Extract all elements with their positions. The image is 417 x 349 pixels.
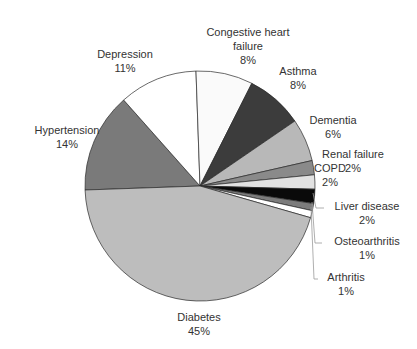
label-percent: 2% (324, 213, 410, 227)
label-name: Renal failure (312, 147, 394, 161)
label-percent: 2% (310, 175, 350, 189)
label-congestive-heart: Congestive heartfailure8% (193, 25, 303, 67)
label-percent: 8% (268, 78, 328, 92)
label-name: Congestive heart (193, 25, 303, 39)
label-percent: 45% (164, 324, 234, 338)
label-name: Depression (85, 47, 165, 61)
label-name: COPD (310, 161, 350, 175)
label-percent: 1% (322, 248, 412, 262)
label-dementia: Dementia6% (300, 113, 366, 141)
label-name: Hypertension (22, 123, 112, 137)
label-percent: 6% (300, 127, 366, 141)
label-hypertension: Hypertension14% (22, 123, 112, 151)
label-asthma: Asthma8% (268, 64, 328, 92)
label-diabetes: Diabetes45% (164, 310, 234, 338)
label-copd: COPD2% (310, 161, 350, 189)
label-liver-disease: Liver disease2% (324, 199, 410, 227)
label-name: Osteoarthritis (322, 234, 412, 248)
pie-slices (85, 71, 315, 301)
label-name: Asthma (268, 64, 328, 78)
label-name: Diabetes (164, 310, 234, 324)
label-name: Arthritis (316, 270, 376, 284)
label-name: Liver disease (324, 199, 410, 213)
label-arthritis: Arthritis1% (316, 270, 376, 298)
label-percent: 1% (316, 284, 376, 298)
label-name-line2: failure (193, 39, 303, 53)
label-percent: 14% (22, 137, 112, 151)
label-name: Dementia (300, 113, 366, 127)
label-depression: Depression11% (85, 47, 165, 75)
label-osteoarthritis: Osteoarthritis1% (322, 234, 412, 262)
label-percent: 11% (85, 61, 165, 75)
